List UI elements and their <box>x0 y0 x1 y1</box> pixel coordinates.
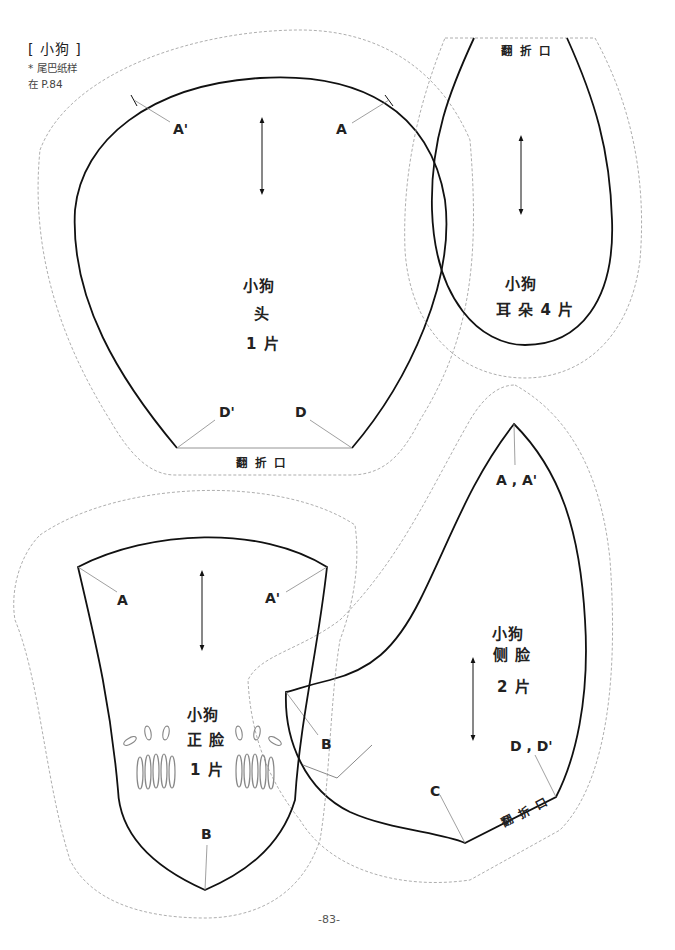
side-face-mark-a-a-prime: A , A' <box>496 472 537 488</box>
head-fold-opening-label: 翻 折 口 <box>236 454 287 470</box>
head-piece-part: 头 <box>254 302 270 323</box>
side-face-mark-d-d-prime: D , D' <box>510 738 553 754</box>
tail-note-line2: 在 P.84 <box>28 76 63 92</box>
ear-piece-count: 耳 朵 4 片 <box>496 298 574 319</box>
page-number: -83- <box>318 913 340 926</box>
front-face-piece-name: 小狗 <box>187 703 219 724</box>
side-face-cut-line <box>286 424 586 843</box>
head-piece-count: 1 片 <box>246 332 280 353</box>
front-face-mark-a-prime: A' <box>265 590 280 606</box>
ear-seam-allowance <box>405 38 642 378</box>
front-face-piece-count: 1 片 <box>190 758 224 779</box>
whisker-marks-left <box>122 726 175 789</box>
side-face-piece-part: 侧 脸 <box>493 643 531 664</box>
front-face-seam-allowance <box>14 490 357 918</box>
ear-fold-opening-label: 翻 折 口 <box>501 42 552 58</box>
front-face-mark-a: A <box>117 592 128 608</box>
head-mark-a-prime: A' <box>173 121 188 137</box>
side-face-seam-allowance <box>248 385 613 883</box>
head-seam-allowance <box>38 30 473 475</box>
head-piece-name: 小狗 <box>243 274 275 295</box>
side-face-mark-b: B <box>321 736 332 752</box>
whisker-marks-right <box>235 726 283 789</box>
side-face-mark-c: C <box>430 783 440 799</box>
pattern-title: [ 小狗 ] <box>28 38 82 58</box>
side-face-piece-count: 2 片 <box>497 675 531 696</box>
head-cut-line <box>75 77 447 448</box>
ear-piece-name: 小狗 <box>505 272 537 293</box>
head-mark-a: A <box>336 121 347 137</box>
pattern-drawing <box>0 0 675 950</box>
head-mark-d: D <box>295 404 307 420</box>
side-face-piece-name: 小狗 <box>492 622 524 643</box>
front-face-mark-b: B <box>201 826 212 842</box>
head-mark-d-prime: D' <box>219 404 235 420</box>
tail-note-line1: * 尾巴纸样 <box>28 60 77 76</box>
front-face-piece-part: 正 脸 <box>187 728 225 749</box>
